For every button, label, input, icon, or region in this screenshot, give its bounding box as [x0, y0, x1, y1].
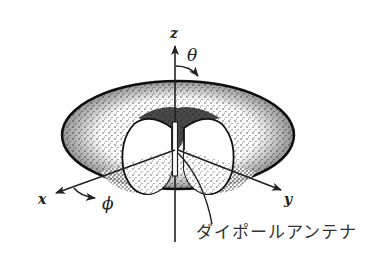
z-axis-label: z — [170, 26, 178, 40]
phi-arrow — [74, 188, 95, 198]
dipole-antenna — [173, 122, 178, 176]
dipole-antenna-label: ダイポールアンテナ — [196, 224, 357, 241]
theta-arrow — [176, 66, 198, 76]
y-axis-label: y — [284, 192, 292, 206]
dipole-radiation-diagram — [0, 0, 388, 259]
x-axis-label: x — [38, 192, 46, 206]
theta-label: θ — [187, 47, 197, 64]
phi-label: ϕ — [102, 195, 114, 212]
